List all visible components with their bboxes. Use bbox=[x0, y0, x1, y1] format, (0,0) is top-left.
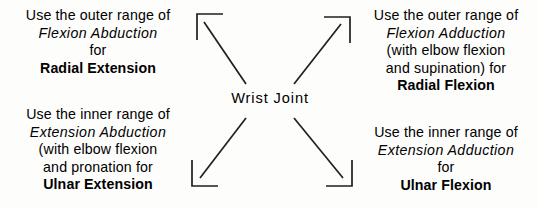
quadrant-bl-line-1: Use the inner range of bbox=[8, 106, 188, 124]
quadrant-top-right: Use the outer range of Flexion Adduction… bbox=[356, 7, 536, 95]
center-label-wrist-joint: Wrist Joint bbox=[200, 90, 340, 106]
quadrant-tl-line-3: for bbox=[8, 42, 188, 60]
quadrant-br-line-3: for bbox=[356, 159, 536, 177]
quadrant-tr-line-1: Use the outer range of bbox=[356, 7, 536, 25]
quadrant-tl-line-2: Flexion Abduction bbox=[8, 25, 188, 43]
arrow-down-left-icon bbox=[192, 118, 246, 186]
quadrant-tr-line-4: and supination) for bbox=[356, 60, 536, 78]
quadrant-br-line-2: Extension Adduction bbox=[356, 142, 536, 160]
quadrant-tr-line-3: (with elbow flexion bbox=[356, 42, 536, 60]
quadrant-bottom-right: Use the inner range of Extension Adducti… bbox=[356, 124, 536, 194]
quadrant-top-left: Use the outer range of Flexion Abduction… bbox=[8, 7, 188, 77]
quadrant-bl-line-5: Ulnar Extension bbox=[8, 176, 188, 194]
wrist-joint-diagram: Use the outer range of Flexion Abduction… bbox=[0, 0, 538, 209]
quadrant-tr-line-2: Flexion Adduction bbox=[356, 25, 536, 43]
quadrant-tl-line-1: Use the outer range of bbox=[8, 7, 188, 25]
quadrant-br-line-1: Use the inner range of bbox=[356, 124, 536, 142]
quadrant-br-line-4: Ulnar Flexion bbox=[356, 177, 536, 195]
quadrant-bl-line-2: Extension Abduction bbox=[8, 124, 188, 142]
quadrant-bl-line-3: (with elbow flexion bbox=[8, 141, 188, 159]
quadrant-tr-line-5: Radial Flexion bbox=[356, 77, 536, 95]
arrow-up-right-icon bbox=[294, 17, 350, 84]
quadrant-bottom-left: Use the inner range of Extension Abducti… bbox=[8, 106, 188, 194]
arrow-up-left-icon bbox=[197, 14, 246, 84]
quadrant-bl-line-4: and pronation for bbox=[8, 159, 188, 177]
arrow-down-right-icon bbox=[294, 118, 352, 186]
quadrant-tl-line-4: Radial Extension bbox=[8, 60, 188, 78]
